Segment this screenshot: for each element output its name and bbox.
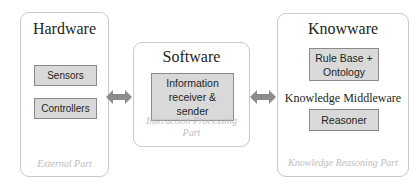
component-sensors-label: Sensors [47, 70, 84, 82]
label-knowledge-middleware: Knowledge Middleware [278, 91, 408, 106]
component-rule-base-ontology-label: Rule Base + Ontology [310, 51, 378, 79]
component-information-receiver-sender: Information receiver & sender [151, 73, 234, 121]
double-arrow-icon-software-knowware [250, 88, 276, 106]
architecture-diagram: Hardware Sensors Controllers External Pa… [0, 0, 417, 186]
panel-knowware-title: Knowware [278, 20, 408, 38]
component-reasoner-label: Reasoner [321, 114, 367, 126]
panel-knowware: Knowware Rule Base + Ontology Knowledge … [277, 13, 409, 177]
panel-hardware: Hardware Sensors Controllers External Pa… [20, 12, 109, 177]
component-controllers: Controllers [34, 98, 97, 119]
panel-hardware-caption: External Part [25, 158, 104, 170]
component-sensors: Sensors [34, 65, 97, 86]
panel-software-title: Software [134, 48, 249, 66]
component-information-receiver-sender-label: Information receiver & sender [152, 76, 233, 118]
panel-hardware-title: Hardware [21, 20, 108, 38]
panel-software: Software Information receiver & sender I… [133, 42, 250, 147]
component-controllers-label: Controllers [41, 103, 89, 115]
panel-knowware-caption: Knowledge Reasoning Part [282, 157, 404, 169]
double-arrow-icon-hardware-software [106, 88, 132, 106]
panel-software-caption: Interaction Processing Part [138, 115, 245, 139]
component-reasoner: Reasoner [309, 109, 379, 131]
component-rule-base-ontology: Rule Base + Ontology [309, 48, 379, 81]
